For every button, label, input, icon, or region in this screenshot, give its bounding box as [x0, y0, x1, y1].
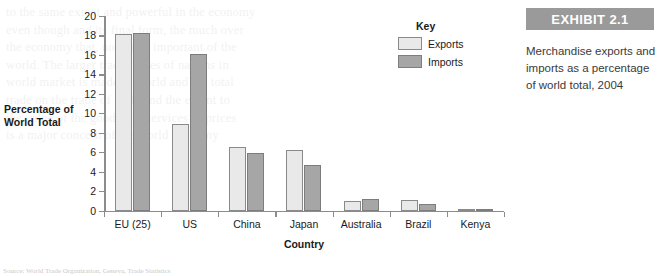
exhibit-panel: EXHIBIT 2.1 Merchandise exports and impo… [519, 0, 666, 276]
legend-label-exports: Exports [428, 38, 464, 50]
x-axis-category-label: China [233, 218, 260, 230]
source-note: Source: World Trade Organization, Geneva… [3, 267, 303, 275]
x-axis-tick [504, 212, 505, 217]
y-axis-tick-label: 10 [84, 108, 96, 119]
y-axis-tick [99, 35, 104, 36]
bar-exports [344, 201, 361, 211]
y-axis-tick [99, 55, 104, 56]
x-axis-category-label: US [182, 218, 197, 230]
legend-label-imports: Imports [428, 56, 463, 68]
x-axis-tick [275, 212, 276, 217]
y-axis-tick [99, 94, 104, 95]
y-axis-tick-label: 0 [90, 205, 96, 216]
exhibit-badge-label: EXHIBIT 2.1 [551, 12, 628, 27]
x-axis-title: Country [104, 238, 504, 250]
bar-imports [133, 33, 150, 211]
x-axis-tick [390, 212, 391, 217]
bar-imports [362, 199, 379, 211]
bar-chart-figure: Percentage of World Total EU (25)USChina… [0, 0, 520, 276]
x-axis-category-label: Japan [290, 218, 319, 230]
bar-imports [304, 165, 321, 211]
y-axis-tick [99, 133, 104, 134]
y-axis-title: Percentage of World Total [4, 103, 90, 128]
y-axis-tick [99, 113, 104, 114]
bar-group: EU (25) [104, 16, 161, 211]
bar-imports [247, 153, 264, 210]
x-axis-category-label: Brazil [405, 218, 431, 230]
y-axis-tick-label: 2 [90, 186, 96, 197]
y-axis-tick [99, 191, 104, 192]
bar-imports [476, 209, 493, 211]
x-axis-tick [218, 212, 219, 217]
legend-swatch-imports-icon [398, 55, 422, 68]
bar-group: US [161, 16, 218, 211]
y-axis-tick [99, 16, 104, 17]
x-axis-category-label: Kenya [461, 218, 491, 230]
x-axis-category-label: Australia [341, 218, 382, 230]
legend-title: Key [416, 20, 503, 32]
y-axis-tick [99, 172, 104, 173]
y-axis-tick-label: 18 [84, 30, 96, 41]
bar-imports [190, 54, 207, 211]
bar-exports [229, 147, 246, 210]
legend-item-imports: Imports [398, 55, 503, 68]
y-axis-tick-label: 12 [84, 89, 96, 100]
bar-exports [172, 124, 189, 211]
exhibit-caption: Merchandise exports and imports as a per… [526, 43, 660, 94]
chart-legend: Key Exports Imports [398, 20, 503, 73]
y-axis-tick-label: 20 [84, 11, 96, 22]
x-axis-tick [104, 212, 105, 217]
bar-exports [286, 150, 303, 210]
x-axis-line [104, 211, 504, 213]
bar-group: China [218, 16, 275, 211]
bar-group: Australia [333, 16, 390, 211]
bar-imports [419, 204, 436, 211]
x-axis-category-label: EU (25) [114, 218, 150, 230]
x-axis-tick [333, 212, 334, 217]
y-axis-tick-label: 8 [90, 127, 96, 138]
bar-exports [115, 34, 132, 210]
y-axis-tick-label: 6 [90, 147, 96, 158]
x-axis-tick [447, 212, 448, 217]
legend-swatch-exports-icon [398, 37, 422, 50]
y-axis-tick-label: 16 [84, 50, 96, 61]
x-axis-tick [161, 212, 162, 217]
legend-item-exports: Exports [398, 37, 503, 50]
y-axis-tick-label: 14 [84, 69, 96, 80]
exhibit-badge: EXHIBIT 2.1 [526, 8, 654, 30]
bar-exports [458, 209, 475, 211]
bar-group: Japan [275, 16, 332, 211]
y-axis-tick-label: 4 [90, 166, 96, 177]
y-axis-tick [99, 152, 104, 153]
bar-exports [401, 200, 418, 211]
y-axis-tick [99, 74, 104, 75]
